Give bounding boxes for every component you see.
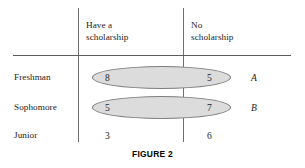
figure-container: Have a scholarship No scholarship Freshm… <box>0 0 305 168</box>
column-header-no-scholarship-line2: scholarship <box>191 32 283 44</box>
row-label-freshman: Freshman <box>14 72 76 83</box>
group-tag-b: B <box>251 102 257 113</box>
group-tag-a: A <box>251 72 257 83</box>
cell-freshman-have-scholarship: 8 <box>105 72 110 83</box>
column-header-have-scholarship-line2: scholarship <box>86 32 178 44</box>
cell-junior-no-scholarship: 6 <box>207 130 212 141</box>
cell-freshman-no-scholarship: 5 <box>207 72 212 83</box>
cell-sophomore-no-scholarship: 7 <box>207 102 212 113</box>
column-header-no-scholarship: No scholarship <box>191 20 283 43</box>
cell-junior-have-scholarship: 3 <box>105 130 110 141</box>
horizontal-rule-header <box>13 55 291 56</box>
row-label-sophomore: Sophomore <box>14 102 76 113</box>
figure-caption: FIGURE 2 <box>18 148 286 159</box>
cell-sophomore-have-scholarship: 5 <box>105 102 110 113</box>
vertical-rule-column-1 <box>78 8 79 142</box>
column-header-no-scholarship-line1: No <box>191 20 202 30</box>
column-header-have-scholarship: Have a scholarship <box>86 20 178 43</box>
row-label-junior: Junior <box>14 130 76 141</box>
column-header-have-scholarship-line1: Have a <box>86 20 112 30</box>
